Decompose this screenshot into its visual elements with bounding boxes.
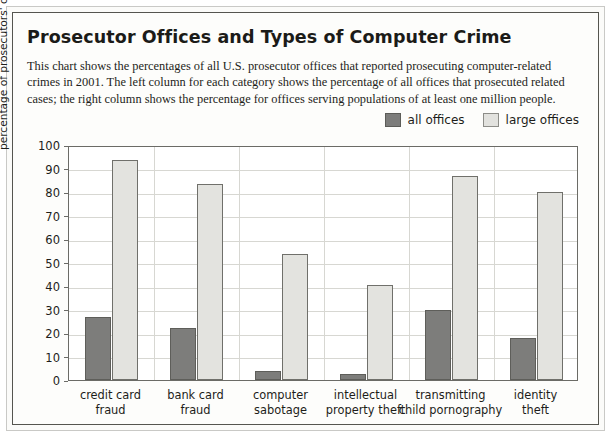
y-axis-tick-label: 70 bbox=[30, 210, 60, 224]
group-separator bbox=[154, 147, 155, 380]
gridline bbox=[69, 170, 577, 171]
legend-item-all-offices: all offices bbox=[385, 113, 465, 127]
y-axis-tick-label: 10 bbox=[30, 351, 60, 365]
page-title: Prosecutor Offices and Types of Computer… bbox=[27, 27, 572, 47]
legend-swatch-icon-all-offices bbox=[385, 113, 401, 127]
gridline bbox=[69, 358, 577, 359]
bar-large-offices-identity-theft bbox=[537, 192, 563, 380]
gridline bbox=[69, 217, 577, 218]
x-axis-category-label-line: identity bbox=[481, 388, 590, 403]
group-separator bbox=[494, 147, 495, 380]
y-axis-tick-label: 90 bbox=[30, 163, 60, 177]
x-axis-category-label-line: theft bbox=[481, 403, 590, 418]
plot-area bbox=[68, 146, 578, 381]
bar-large-offices-bank-card-fraud bbox=[197, 184, 223, 380]
bar-all-offices-computer-sabotage bbox=[255, 371, 281, 380]
chart-figure: Prosecutor Offices and Types of Computer… bbox=[0, 0, 611, 437]
y-axis-tick-label: 20 bbox=[30, 327, 60, 341]
y-axis-tick-label: 40 bbox=[30, 280, 60, 294]
gridline bbox=[69, 288, 577, 289]
gridline bbox=[69, 241, 577, 242]
bar-large-offices-intellectual-property-theft bbox=[367, 285, 393, 380]
bar-large-offices-credit-card-fraud bbox=[112, 160, 138, 380]
y-axis-tick-label: 30 bbox=[30, 304, 60, 318]
group-separator bbox=[324, 147, 325, 380]
legend-label-all-offices: all offices bbox=[408, 113, 465, 127]
chart-legend: all offices large offices bbox=[385, 113, 579, 127]
y-axis-tick-label: 80 bbox=[30, 186, 60, 200]
bar-all-offices-identity-theft bbox=[510, 338, 536, 380]
group-separator bbox=[239, 147, 240, 380]
y-axis-tick-label: 60 bbox=[30, 233, 60, 247]
legend-swatch-icon-large-offices bbox=[483, 113, 499, 127]
gridline bbox=[69, 194, 577, 195]
bar-all-offices-intellectual-property-theft bbox=[340, 374, 366, 380]
bar-large-offices-transmitting-child-pornography bbox=[452, 176, 478, 380]
y-axis-tick-label: 50 bbox=[30, 257, 60, 271]
y-axis-title: percentage of prosecutors' offices bbox=[0, 0, 9, 150]
bar-all-offices-transmitting-child-pornography bbox=[425, 310, 451, 381]
x-axis-category-label: identitytheft bbox=[481, 388, 590, 417]
y-axis-tick-label: 100 bbox=[30, 139, 60, 153]
gridline bbox=[69, 311, 577, 312]
gridline bbox=[69, 264, 577, 265]
gridline bbox=[69, 335, 577, 336]
y-axis-tick-label: 0 bbox=[30, 374, 60, 388]
legend-label-large-offices: large offices bbox=[506, 113, 579, 127]
chart-description: This chart shows the percentages of all … bbox=[27, 58, 575, 107]
bar-all-offices-bank-card-fraud bbox=[170, 328, 196, 380]
legend-item-large-offices: large offices bbox=[483, 113, 579, 127]
group-separator bbox=[409, 147, 410, 380]
bar-all-offices-credit-card-fraud bbox=[85, 317, 111, 380]
bar-large-offices-computer-sabotage bbox=[282, 254, 308, 380]
